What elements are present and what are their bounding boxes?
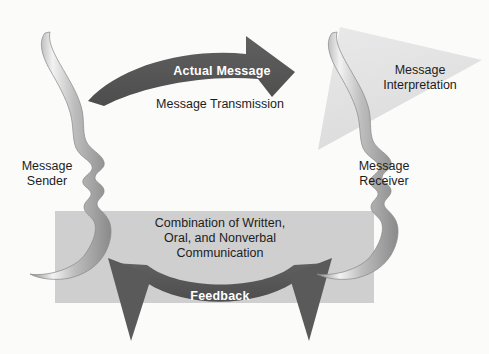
diagram-canvas bbox=[0, 0, 489, 354]
communication-diagram: Actual Message Message Transmission Mess… bbox=[0, 0, 489, 354]
